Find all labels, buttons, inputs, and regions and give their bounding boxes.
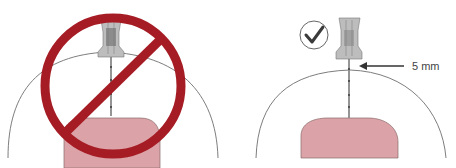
arrow-left-icon xyxy=(359,62,404,70)
needle-hub xyxy=(336,18,362,59)
incorrect-injection-illustration xyxy=(0,0,228,168)
incorrect-technique-panel xyxy=(0,0,228,168)
correct-injection-illustration xyxy=(228,0,456,168)
correct-technique-panel: 5 mm xyxy=(228,0,456,168)
needle-hub xyxy=(98,20,124,57)
muscle-tissue xyxy=(301,118,398,158)
needle-length-label: 5 mm xyxy=(412,60,440,72)
needle xyxy=(348,58,350,118)
check-circle-icon xyxy=(300,21,328,49)
